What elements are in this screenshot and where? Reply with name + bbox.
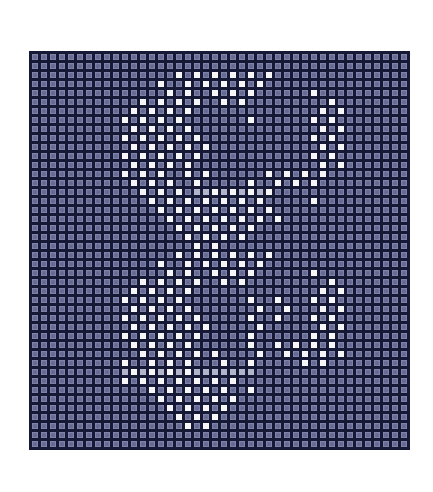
grid-cell (337, 152, 345, 160)
grid-cell (58, 314, 66, 322)
grid-cell (130, 188, 138, 196)
grid-cell (202, 395, 210, 403)
grid-cell (247, 80, 255, 88)
grid-cell (166, 170, 174, 178)
grid-cell (355, 152, 363, 160)
grid-cell (328, 188, 336, 196)
grid-cell (157, 179, 165, 187)
grid-cell (256, 188, 264, 196)
grid-cell (364, 116, 372, 124)
grid-cell (193, 224, 201, 232)
grid-cell (193, 251, 201, 259)
grid-cell (85, 332, 93, 340)
grid-cell (274, 278, 282, 286)
grid-cell (121, 242, 129, 250)
grid-cell (265, 134, 273, 142)
grid-cell (76, 134, 84, 142)
grid-cell (130, 305, 138, 313)
grid-cell (184, 71, 192, 79)
grid-cell (310, 224, 318, 232)
grid-cell (373, 350, 381, 358)
grid-cell (76, 89, 84, 97)
grid-cell (355, 161, 363, 169)
grid-cell (256, 143, 264, 151)
grid-cell (346, 233, 354, 241)
grid-cell (148, 278, 156, 286)
grid-cell (391, 233, 399, 241)
grid-cell (31, 386, 39, 394)
grid-cell (400, 53, 408, 61)
grid-cell (211, 296, 219, 304)
grid-cell (184, 332, 192, 340)
grid-cell (274, 134, 282, 142)
grid-cell (148, 125, 156, 133)
grid-cell (220, 404, 228, 412)
grid-cell (328, 269, 336, 277)
grid-cell (148, 431, 156, 439)
grid-cell (184, 287, 192, 295)
grid-cell (31, 107, 39, 115)
grid-cell (373, 80, 381, 88)
grid-cell (103, 224, 111, 232)
grid-cell (49, 404, 57, 412)
grid-cell (175, 404, 183, 412)
grid-cell (382, 332, 390, 340)
grid-cell (76, 233, 84, 241)
grid-cell (76, 422, 84, 430)
grid-cell (67, 143, 75, 151)
grid-cell (373, 89, 381, 97)
grid-cell (247, 188, 255, 196)
grid-cell (247, 215, 255, 223)
grid-cell (265, 107, 273, 115)
grid-cell (40, 179, 48, 187)
grid-cell (139, 440, 147, 448)
grid-cell (58, 125, 66, 133)
grid-cell (274, 71, 282, 79)
grid-cell (301, 89, 309, 97)
grid-cell (67, 359, 75, 367)
grid-cell (346, 125, 354, 133)
grid-cell (265, 296, 273, 304)
grid-cell (148, 332, 156, 340)
grid-cell (337, 332, 345, 340)
grid-cell (247, 89, 255, 97)
grid-cell (94, 233, 102, 241)
grid-cell (112, 332, 120, 340)
grid-cell (31, 422, 39, 430)
grid-cell (211, 431, 219, 439)
grid-cell (346, 341, 354, 349)
grid-cell (103, 287, 111, 295)
grid-cell (31, 359, 39, 367)
grid-cell (400, 296, 408, 304)
grid-cell (310, 386, 318, 394)
grid-cell (220, 413, 228, 421)
grid-cell (121, 260, 129, 268)
grid-cell (58, 170, 66, 178)
grid-cell (175, 143, 183, 151)
grid-cell (139, 404, 147, 412)
grid-cell (274, 332, 282, 340)
grid-cell (175, 98, 183, 106)
grid-cell (58, 404, 66, 412)
grid-cell (121, 377, 129, 385)
grid-cell (139, 71, 147, 79)
grid-cell (211, 152, 219, 160)
grid-cell (157, 134, 165, 142)
grid-cell (31, 377, 39, 385)
grid-cell (76, 269, 84, 277)
grid-cell (310, 116, 318, 124)
grid-cell (166, 350, 174, 358)
grid-cell (103, 215, 111, 223)
grid-cell (391, 296, 399, 304)
grid-cell (157, 359, 165, 367)
grid-cell (148, 314, 156, 322)
grid-cell (265, 116, 273, 124)
grid-cell (121, 134, 129, 142)
grid-cell (373, 332, 381, 340)
grid-cell (202, 251, 210, 259)
grid-cell (310, 152, 318, 160)
grid-cell (121, 359, 129, 367)
grid-cell (328, 179, 336, 187)
grid-cell (76, 98, 84, 106)
grid-cell (283, 422, 291, 430)
